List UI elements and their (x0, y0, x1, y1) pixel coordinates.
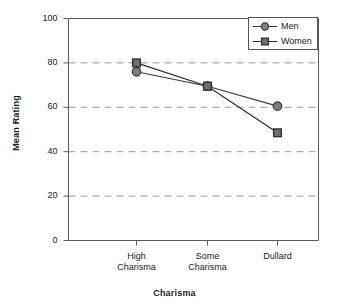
x-tick-label-line1: High (127, 251, 146, 261)
y-tick-label: 40 (28, 146, 58, 156)
y-axis-ticks (64, 19, 69, 241)
x-axis-ticks (137, 241, 278, 246)
chart-figure: Mean Rating Charisma 020406080100 HighCh… (0, 0, 349, 307)
series-markers (132, 59, 281, 137)
y-tick-label: 0 (28, 235, 58, 245)
y-tick-label: 80 (28, 57, 58, 67)
x-tick-label: Dullard (233, 251, 323, 262)
y-tick-label: 60 (28, 101, 58, 111)
x-tick-label-line1: Dullard (263, 251, 292, 261)
legend-item-men: Men (249, 19, 319, 34)
y-tick-label: 100 (28, 13, 58, 23)
legend-item-women: Women (249, 34, 319, 49)
series-lines (137, 63, 278, 133)
legend-label-women: Women (281, 36, 312, 46)
legend-label-men: Men (281, 21, 299, 31)
x-tick-label-line2: Charisma (163, 262, 253, 273)
y-tick-label: 20 (28, 190, 58, 200)
chart-legend: Men Women (248, 17, 318, 50)
legend-marker-circle-icon (253, 19, 277, 34)
y-axis-title: Mean Rating (11, 93, 21, 153)
x-axis-title: Charisma (0, 288, 349, 298)
legend-marker-square-icon (253, 34, 277, 49)
x-tick-label-line1: Some (196, 251, 220, 261)
